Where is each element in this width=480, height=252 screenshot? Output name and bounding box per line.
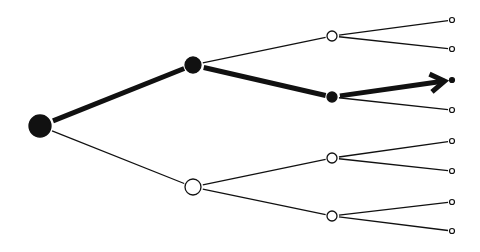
hollow-node-leaf2 [450,47,455,52]
tree-edge [203,159,326,185]
hollow-node-l2d [327,211,337,221]
filled-node-root [29,115,51,137]
tree-edge [339,217,448,231]
tree-edge [203,189,326,215]
bold-path-edge [53,69,184,121]
hollow-node-leaf8 [450,229,455,234]
tree-edge [339,202,448,215]
hollow-node-l1b [185,179,201,195]
bold-path-edge [340,81,445,96]
filled-node-l1a [185,57,201,73]
tree-edge [339,159,448,171]
hollow-node-l2c [327,153,337,163]
hollow-node-leaf4 [450,108,455,113]
tree-edge [203,37,326,63]
tree-edge [52,131,184,184]
tree-edge [339,98,448,110]
hollow-node-leaf1 [450,18,455,23]
hollow-node-leaf6 [450,169,455,174]
hollow-node-leaf7 [450,200,455,205]
bold-path-edge [204,67,326,95]
tree-canvas [0,0,480,252]
hollow-node-l2a [327,31,337,41]
decision-tree-diagram [0,0,480,252]
tree-edge [339,37,448,49]
filled-node-leaf3 [450,78,455,83]
tree-edge [339,142,448,157]
tree-edge [339,21,448,36]
hollow-node-leaf5 [450,139,455,144]
filled-node-l2b [327,92,337,102]
